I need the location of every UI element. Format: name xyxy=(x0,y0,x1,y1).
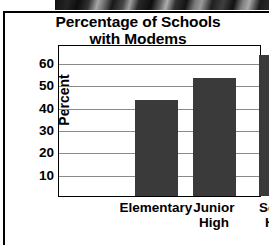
x-tick-label-senior-high: Senior High xyxy=(235,200,269,230)
page-title: Percentage of Schoolswith Modems xyxy=(22,14,254,47)
chart-title-line-1: Percentage of Schools xyxy=(55,13,220,30)
plot-area: Percent 605040302010 ElementaryJunior Hi… xyxy=(58,45,261,197)
y-tick-label-60: 60 xyxy=(24,57,54,71)
page-border-left xyxy=(3,11,5,245)
chart-page: Percentage of Schoolswith Modems Percent… xyxy=(0,0,269,245)
y-tick-label-30: 30 xyxy=(24,124,54,138)
gridline-60 xyxy=(59,64,260,65)
photo-strip-shade xyxy=(55,0,269,10)
bar-senior-high xyxy=(259,55,270,196)
bar-elementary xyxy=(135,100,178,196)
y-tick-label-10: 10 xyxy=(24,169,54,183)
y-tick-label-50: 50 xyxy=(24,79,54,93)
y-tick-label-40: 40 xyxy=(24,102,54,116)
chart-title-line-2: with Modems xyxy=(89,30,186,47)
y-tick-label-20: 20 xyxy=(24,146,54,160)
bar-junior-high xyxy=(193,78,236,197)
